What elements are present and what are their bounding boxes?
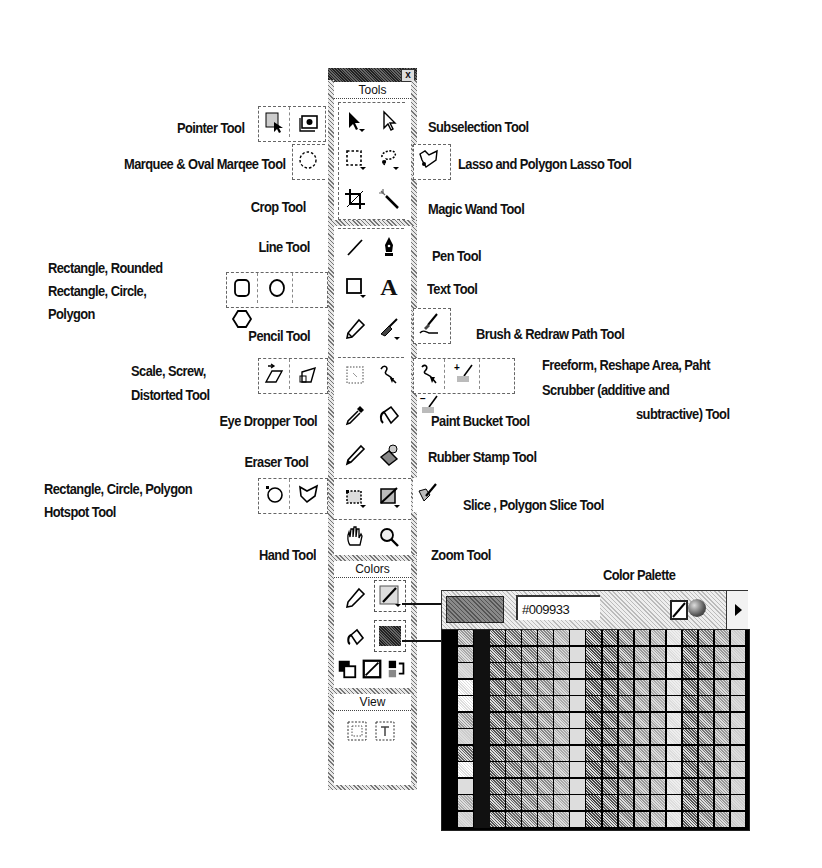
color-swatch[interactable] xyxy=(651,663,666,678)
color-swatch[interactable] xyxy=(474,663,490,680)
color-swatch[interactable] xyxy=(651,696,666,711)
color-swatch[interactable] xyxy=(619,680,634,695)
color-swatch[interactable] xyxy=(442,779,458,796)
color-swatch[interactable] xyxy=(586,746,601,761)
color-swatch[interactable] xyxy=(699,663,714,678)
ellipse-button[interactable] xyxy=(262,273,293,303)
color-swatch[interactable] xyxy=(538,795,553,810)
color-swatch[interactable] xyxy=(522,680,537,695)
color-swatch[interactable] xyxy=(667,779,682,794)
color-swatch[interactable] xyxy=(458,746,473,761)
color-swatch[interactable] xyxy=(458,696,473,711)
paint-bucket-tool-button[interactable] xyxy=(374,400,404,430)
color-swatch[interactable] xyxy=(506,746,521,761)
color-swatch[interactable] xyxy=(603,779,618,794)
color-swatch[interactable] xyxy=(715,647,730,662)
hand-tool-button[interactable] xyxy=(340,522,370,552)
color-swatch[interactable] xyxy=(490,795,505,810)
freeform-tool-button[interactable] xyxy=(374,360,404,390)
color-swatch[interactable] xyxy=(506,713,521,728)
palette-options-button[interactable] xyxy=(726,591,748,629)
color-swatch[interactable] xyxy=(506,795,521,810)
marquee-tool-button[interactable] xyxy=(340,144,370,174)
color-swatch[interactable] xyxy=(474,729,490,746)
color-swatch[interactable] xyxy=(715,696,730,711)
color-swatch[interactable] xyxy=(538,812,553,827)
color-swatch[interactable] xyxy=(667,812,682,827)
color-swatch[interactable] xyxy=(699,680,714,695)
color-swatch[interactable] xyxy=(603,746,618,761)
color-swatch[interactable] xyxy=(490,696,505,711)
color-swatch[interactable] xyxy=(683,713,698,728)
color-swatch[interactable] xyxy=(715,795,730,810)
color-swatch[interactable] xyxy=(667,795,682,810)
color-swatch[interactable] xyxy=(458,779,473,794)
subselection-tool-button[interactable] xyxy=(374,106,404,136)
fill-color-well[interactable] xyxy=(374,620,406,652)
color-swatch[interactable] xyxy=(474,630,490,647)
color-swatch[interactable] xyxy=(490,630,505,645)
magic-wand-tool-button[interactable] xyxy=(374,184,404,214)
color-swatch[interactable] xyxy=(731,746,746,761)
color-swatch[interactable] xyxy=(699,696,714,711)
color-swatch[interactable] xyxy=(442,663,458,680)
color-swatch[interactable] xyxy=(699,630,714,645)
lasso-tool-button[interactable] xyxy=(374,144,404,174)
color-swatch[interactable] xyxy=(506,779,521,794)
color-swatch[interactable] xyxy=(715,713,730,728)
color-swatch[interactable] xyxy=(603,630,618,645)
color-swatch[interactable] xyxy=(586,762,601,777)
color-swatch[interactable] xyxy=(603,713,618,728)
color-swatch[interactable] xyxy=(651,680,666,695)
color-swatch[interactable] xyxy=(458,795,473,810)
color-swatch[interactable] xyxy=(522,630,537,645)
color-swatch[interactable] xyxy=(683,696,698,711)
color-swatch[interactable] xyxy=(474,762,490,779)
path-scrubber-additive-button[interactable]: + xyxy=(449,359,480,389)
color-swatch[interactable] xyxy=(699,812,714,827)
color-swatch[interactable] xyxy=(586,729,601,744)
color-swatch[interactable] xyxy=(619,746,634,761)
circle-hotspot-button[interactable] xyxy=(259,479,290,509)
color-swatch[interactable] xyxy=(522,795,537,810)
color-swatch[interactable] xyxy=(554,647,569,662)
color-swatch[interactable] xyxy=(619,647,634,662)
color-swatch[interactable] xyxy=(474,746,490,763)
color-swatch[interactable] xyxy=(586,795,601,810)
rubber-stamp-tool-button[interactable] xyxy=(374,440,404,470)
color-swatch[interactable] xyxy=(651,762,666,777)
color-swatch[interactable] xyxy=(715,779,730,794)
color-swatch[interactable] xyxy=(506,762,521,777)
color-swatch[interactable] xyxy=(715,680,730,695)
redraw-path-button[interactable] xyxy=(414,309,444,339)
color-swatch[interactable] xyxy=(619,663,634,678)
color-swatch[interactable] xyxy=(619,779,634,794)
color-swatch[interactable] xyxy=(731,680,746,695)
color-swatch[interactable] xyxy=(699,795,714,810)
color-swatch[interactable] xyxy=(490,713,505,728)
color-swatch[interactable] xyxy=(490,779,505,794)
polygon-lasso-button[interactable] xyxy=(414,145,444,175)
brush-tool-button[interactable] xyxy=(374,314,404,344)
color-swatch[interactable] xyxy=(538,746,553,761)
color-swatch[interactable] xyxy=(554,663,569,678)
no-color-button[interactable] xyxy=(670,600,688,620)
color-swatch[interactable] xyxy=(683,663,698,678)
color-swatch[interactable] xyxy=(683,779,698,794)
color-swatch[interactable] xyxy=(667,746,682,761)
color-swatch[interactable] xyxy=(570,696,585,711)
color-swatch[interactable] xyxy=(490,647,505,662)
polygon-hotspot-button[interactable] xyxy=(294,479,324,509)
color-swatch[interactable] xyxy=(731,779,746,794)
pointer-select-behind-button[interactable] xyxy=(259,107,290,137)
color-swatch[interactable] xyxy=(506,663,521,678)
color-swatch[interactable] xyxy=(538,647,553,662)
oval-marquee-button[interactable] xyxy=(293,145,323,175)
color-swatch[interactable] xyxy=(651,779,666,794)
color-swatch[interactable] xyxy=(506,630,521,645)
color-swatch[interactable] xyxy=(683,630,698,645)
color-swatch[interactable] xyxy=(522,729,537,744)
color-swatch[interactable] xyxy=(570,729,585,744)
color-swatch[interactable] xyxy=(603,680,618,695)
color-swatch[interactable] xyxy=(554,812,569,827)
